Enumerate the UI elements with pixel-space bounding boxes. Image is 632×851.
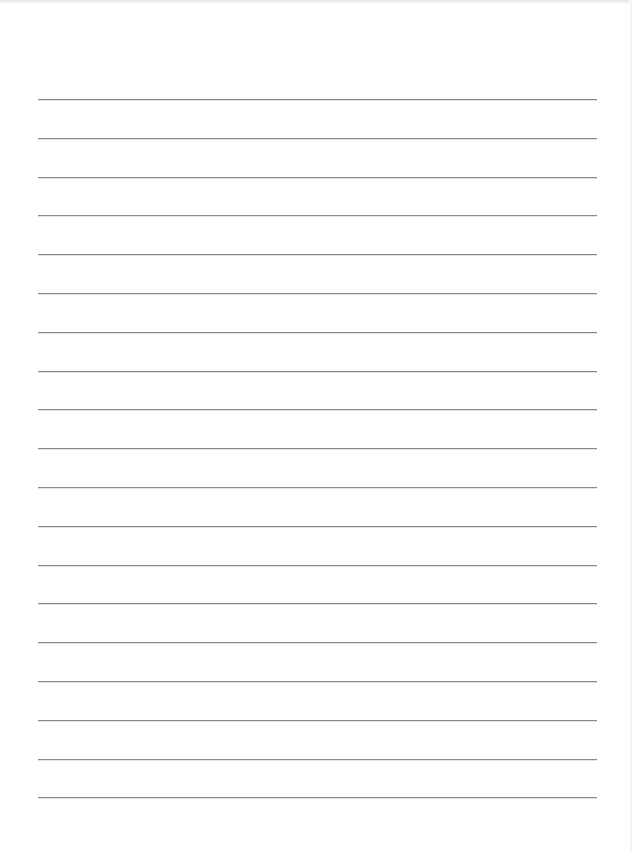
ruled-line [38,487,597,488]
page-top-edge [0,0,632,4]
ruled-line [38,293,597,294]
ruled-line [38,177,597,178]
ruled-line [38,720,597,721]
ruled-line [38,603,597,604]
ruled-line [38,565,597,566]
ruled-line [38,409,597,410]
ruled-line [38,681,597,682]
ruled-line [38,254,597,255]
ruled-line [38,448,597,449]
ruled-line [38,99,597,100]
ruled-line [38,526,597,527]
ruled-line [38,332,597,333]
ruled-line [38,642,597,643]
ruled-line [38,215,597,216]
ruled-line [38,138,597,139]
ruled-line [38,371,597,372]
ruled-line [38,797,597,798]
ruled-line [38,759,597,760]
